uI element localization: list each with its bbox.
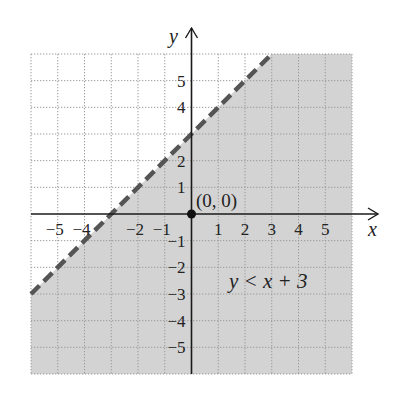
x-tick-label: 4: [294, 220, 303, 239]
y-axis-label: y: [167, 25, 178, 48]
x-tick-label: 3: [268, 220, 277, 239]
x-tick-label: −4: [72, 220, 91, 239]
y-tick-label: −2: [167, 258, 185, 277]
x-tick-label: 5: [321, 220, 330, 239]
y-tick-label: −3: [167, 285, 185, 304]
inequality-label: y < x + 3: [227, 269, 307, 293]
y-tick-label: 4: [177, 98, 186, 117]
y-tick-label: 1: [177, 178, 186, 197]
y-tick-label: −4: [167, 312, 186, 331]
y-tick-label: −5: [167, 338, 185, 357]
origin-point: [187, 210, 196, 219]
x-tick-label: 2: [241, 220, 250, 239]
point-label: (0, 0): [196, 190, 237, 212]
y-tick-label: 2: [177, 152, 186, 171]
y-tick-label: 5: [177, 72, 186, 91]
x-tick-label: −5: [46, 220, 64, 239]
coordinate-plane: −5−4−2−1123455421−1−2−3−4−5 x y y < x + …: [0, 0, 406, 400]
y-tick-label: −1: [167, 232, 185, 251]
x-axis-label: x: [367, 218, 377, 240]
inequality-graph: −5−4−2−1123455421−1−2−3−4−5 x y y < x + …: [0, 0, 406, 400]
ineq-text: y < x + 3: [227, 269, 307, 293]
x-tick-label: −2: [126, 220, 144, 239]
x-tick-label: 1: [214, 220, 223, 239]
